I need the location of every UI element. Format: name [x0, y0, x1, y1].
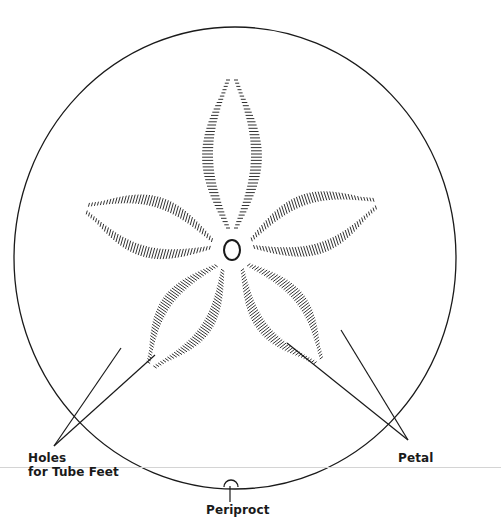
- leader-petal-1: [341, 330, 408, 440]
- label-holes-line1: Holes: [28, 451, 119, 465]
- leader-holes-1: [54, 355, 155, 446]
- label-holes-for-tube-feet: Holes for Tube Feet: [28, 451, 119, 479]
- petal-upper-left: [86, 195, 212, 260]
- apical-disc: [224, 240, 240, 260]
- petal-lower-right: [241, 264, 323, 364]
- petal-top: [202, 80, 262, 228]
- label-holes-line2: for Tube Feet: [28, 465, 119, 479]
- sand-dollar-diagram: [0, 0, 501, 524]
- leader-holes-0: [54, 348, 121, 446]
- label-petal: Petal: [398, 451, 433, 465]
- label-periproct: Periproct: [206, 503, 269, 517]
- petal-lower-left: [147, 265, 225, 369]
- petals-group: [86, 80, 376, 368]
- petal-upper-right: [251, 191, 376, 256]
- periproct-opening: [224, 480, 238, 487]
- leader-petal-0: [287, 343, 408, 440]
- test-outline: [14, 27, 456, 489]
